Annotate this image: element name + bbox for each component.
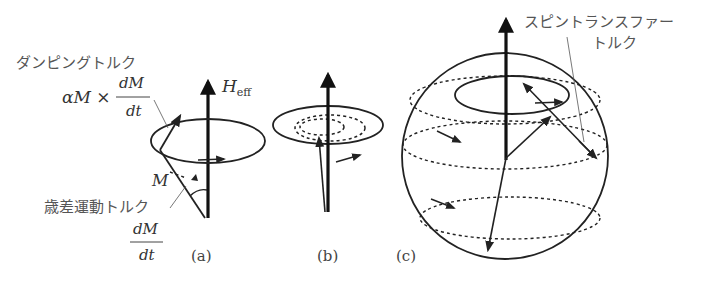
panel-b: (b) <box>273 75 383 265</box>
svg-text:dM: dM <box>119 74 145 92</box>
panel-c: スピントランスファー トルク (c) <box>396 13 674 265</box>
magnetization-label: M <box>151 171 169 190</box>
cone-angle-arc <box>190 190 207 196</box>
spin-transfer-torque-label-2: トルク <box>592 34 637 52</box>
magnetization-dynamics-figure: Heff ダンピングトルク αM × dM dt M 歳差運動トルク dM dt… <box>0 0 720 292</box>
svg-text:dt: dt <box>139 246 156 264</box>
panel-b-label: (b) <box>317 247 338 265</box>
svg-text:dt: dt <box>126 102 143 120</box>
top-orbit <box>455 76 569 114</box>
orbit-direction-arrow-icon <box>198 159 224 160</box>
spiral-direction-arrow-icon <box>336 155 360 162</box>
spiral-orbit-dashed <box>295 115 365 141</box>
magnetization-vector <box>319 138 325 212</box>
spin-transfer-torque-label-1: スピントランスファー <box>524 13 674 31</box>
damping-torque-arrow-icon <box>160 116 180 150</box>
panel-c-label: (c) <box>396 247 416 265</box>
magnetization-vector-lower <box>488 158 506 250</box>
panel-a: Heff ダンピングトルク αM × dM dt M 歳差運動トルク dM dt… <box>16 54 265 265</box>
damping-torque-label: ダンピングトルク <box>16 54 136 72</box>
panel-a-label: (a) <box>191 247 212 265</box>
precession-torque-label: 歳差運動トルク <box>44 198 149 216</box>
damping-expr: αM × <box>62 87 111 107</box>
svg-text:dM: dM <box>133 220 159 238</box>
heff-label: Heff <box>221 76 252 99</box>
